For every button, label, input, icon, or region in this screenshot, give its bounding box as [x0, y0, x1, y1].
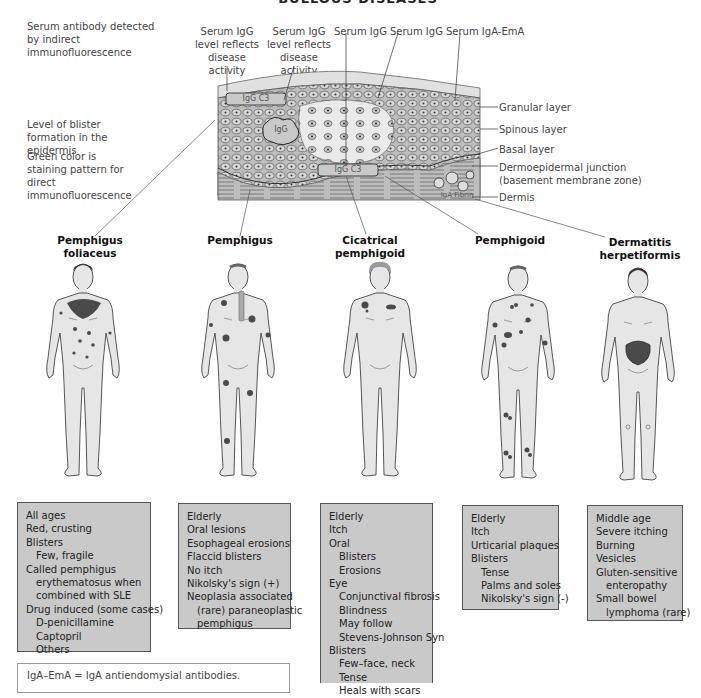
info-line: (rare) paraneoplastic: [187, 604, 282, 617]
info-line: Flaccid blisters: [187, 550, 282, 563]
info-line: Eye: [329, 577, 424, 590]
info-line: pemphigus: [187, 617, 282, 630]
info-box-dermatitis-herpetiformis: Middle ageSevere itchingBurningVesiclesG…: [587, 505, 683, 621]
info-line: Itch: [329, 523, 424, 536]
body-figures: [0, 255, 701, 495]
legend-text: IgA–EmA = IgA antiendomysial antibodies.: [27, 670, 240, 681]
info-line: Palms and soles: [471, 579, 550, 592]
info-line: Tense: [329, 671, 424, 684]
info-line: lymphoma (rare): [596, 606, 674, 619]
skin-cross-section: [0, 0, 701, 250]
info-line: All ages: [26, 509, 142, 522]
info-line: Blisters: [471, 552, 550, 565]
info-line: Few–face, neck: [329, 657, 424, 670]
info-line: Severe itching: [596, 525, 674, 538]
info-line: May follow: [329, 617, 424, 630]
info-box-pemphigus: ElderlyOral lesionsEsophageal erosionsFl…: [178, 503, 291, 629]
info-line: Stevens-Johnson Syn: [329, 631, 424, 644]
info-box-pemphigus-foliaceus: All agesRed, crustingBlistersFew, fragil…: [17, 502, 151, 652]
layer-label-basal: Basal layer: [499, 143, 554, 156]
info-line: Esophageal erosions: [187, 537, 282, 550]
info-line: Vesicles: [596, 552, 674, 565]
info-line: Blisters: [329, 550, 424, 563]
info-line: Conjunctival fibrosis: [329, 590, 424, 603]
deposit-label-basement: IgG C3: [318, 164, 378, 176]
info-line: Elderly: [471, 512, 550, 525]
layer-label-dermoepidermal: Dermoepidermal junction (basement membra…: [499, 161, 669, 187]
info-line: Captopril: [26, 630, 142, 643]
layer-label-granular: Granular layer: [499, 101, 571, 114]
info-line: Few, fragile: [26, 549, 142, 562]
info-line: enteropathy: [596, 579, 674, 592]
info-line: Elderly: [329, 510, 424, 523]
info-box-pemphigoid: ElderlyItchUrticarial plaquesBlistersTen…: [462, 505, 559, 610]
info-line: Heals with scars: [329, 684, 424, 697]
info-line: D-penicillamine: [26, 616, 142, 629]
info-line: Blindness: [329, 604, 424, 617]
info-line: Oral: [329, 537, 424, 550]
info-line: Elderly: [187, 510, 282, 523]
info-line: erythematosus when: [26, 576, 142, 589]
info-line: Middle age: [596, 512, 674, 525]
info-line: Red, crusting: [26, 522, 142, 535]
info-line: Tense: [471, 566, 550, 579]
disease-title-pemphigoid: Pemphigoid: [470, 234, 550, 247]
deposit-label-dermal: IgA Fibrin: [440, 191, 474, 199]
info-box-cicatrical-pemphigoid: ElderlyItchOralBlistersErosionsEyeConjun…: [320, 503, 433, 683]
info-line: Burning: [596, 539, 674, 552]
info-line: Called pemphigus: [26, 563, 142, 576]
layer-label-spinous: Spinous layer: [499, 123, 567, 136]
info-line: Urticarial plaques: [471, 539, 550, 552]
info-line: Itch: [471, 525, 550, 538]
deposit-label-upper: IgG C3: [226, 93, 286, 105]
info-line: Gluten-sensitive: [596, 566, 674, 579]
info-line: Blisters: [26, 536, 142, 549]
info-line: Others: [26, 643, 142, 656]
info-line: Erosions: [329, 564, 424, 577]
info-line: No itch: [187, 564, 282, 577]
info-line: Small bowel: [596, 592, 674, 605]
info-line: Blisters: [329, 644, 424, 657]
disease-title-pemphigus: Pemphigus: [195, 234, 285, 247]
layer-label-dermis: Dermis: [499, 191, 535, 204]
deposit-label-intercellular: IgG: [266, 125, 296, 134]
info-line: combined with SLE: [26, 589, 142, 602]
info-line: Drug induced (some cases): [26, 603, 142, 616]
info-line: Nikolsky's sign (+): [187, 577, 282, 590]
legend-box: IgA–EmA = IgA antiendomysial antibodies.: [17, 663, 290, 693]
info-line: Neoplasia associated: [187, 590, 282, 603]
info-line: Nikolsky's sign (-): [471, 592, 550, 605]
info-line: Oral lesions: [187, 523, 282, 536]
